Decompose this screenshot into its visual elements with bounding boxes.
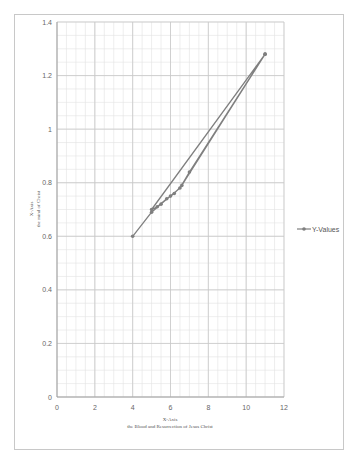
y-tick-label: 1.4 <box>42 19 52 26</box>
svg-text:the Blood and Resurrection of: the Blood and Resurrection of Jesus Chri… <box>127 424 213 429</box>
x-tick-label: 2 <box>93 404 97 411</box>
y-tick-label: 0.2 <box>42 340 52 347</box>
x-tick-label: 4 <box>131 404 135 411</box>
svg-text:the mind of Christ: the mind of Christ <box>36 190 41 227</box>
legend-marker-icon <box>302 227 306 231</box>
y-tick-label: 0.8 <box>42 179 52 186</box>
y-tick-label: 1.2 <box>42 72 52 79</box>
x-axis-title: X-Axis the Blood and Resurrection of Jes… <box>127 417 213 429</box>
data-point-marker <box>155 205 159 209</box>
svg-text:X-Axis: X-Axis <box>29 202 34 217</box>
y-axis-title: X-Axis the mind of Christ <box>29 190 41 227</box>
data-point-marker <box>169 194 173 198</box>
y-tick-label: 0.4 <box>42 286 52 293</box>
data-point-marker <box>131 234 135 238</box>
x-tick-label: 12 <box>280 404 288 411</box>
data-point-marker <box>263 52 267 56</box>
y-tick-label: 0.6 <box>42 233 52 240</box>
y-tick-label: 1 <box>48 126 52 133</box>
data-point-marker <box>180 184 184 188</box>
legend-label: Y-Values <box>312 226 340 233</box>
data-point-marker <box>188 170 192 174</box>
data-point-marker <box>165 197 169 201</box>
data-point-marker <box>172 192 176 196</box>
x-tick-label: 8 <box>206 404 210 411</box>
scatter-chart: 00.20.40.60.811.21.4 024681012 X-Axis th… <box>0 0 356 456</box>
x-tick-label: 0 <box>55 404 59 411</box>
x-tick-label: 10 <box>242 404 250 411</box>
data-point-marker <box>150 208 154 212</box>
data-point-marker <box>159 202 163 206</box>
y-tick-label: 0 <box>48 394 52 401</box>
svg-text:X-Axis: X-Axis <box>163 417 178 422</box>
y-axis-ticks: 00.20.40.60.811.21.4 <box>42 19 52 401</box>
legend: Y-Values <box>297 226 340 233</box>
x-axis-ticks: 024681012 <box>55 404 288 411</box>
x-tick-label: 6 <box>169 404 173 411</box>
